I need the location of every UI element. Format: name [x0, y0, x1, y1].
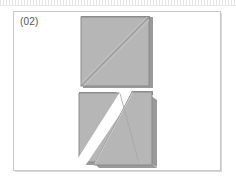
- panel-shadow-right: [221, 13, 222, 172]
- diagram-page: (02): [0, 0, 236, 183]
- figure-area: [13, 11, 221, 171]
- panel-shadow-bottom: [15, 171, 222, 172]
- separated-square-shape: [73, 88, 165, 170]
- intact-square-shape: [75, 14, 157, 92]
- top-divider-rule: [0, 5, 236, 6]
